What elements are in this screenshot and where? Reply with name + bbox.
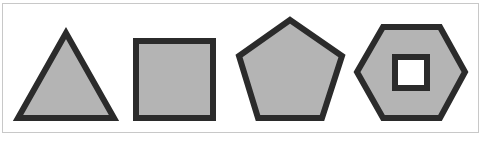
hexagon-square-hole	[395, 57, 427, 88]
triangle-shape	[18, 33, 114, 118]
shapes-canvas	[0, 0, 484, 141]
pentagon-shape	[239, 20, 342, 118]
square-shape	[136, 41, 213, 118]
